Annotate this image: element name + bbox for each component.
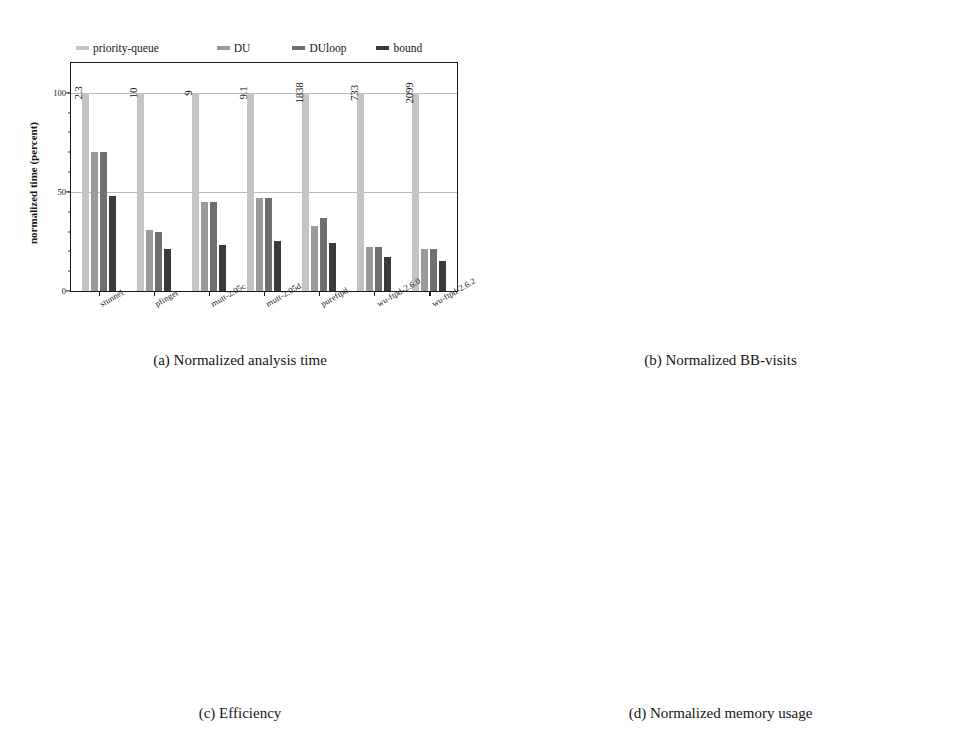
bar-group: 2.3	[71, 63, 126, 291]
panel-a-normalized-analysis-time: priority-queueDUDUloopbound normalized t…	[0, 0, 480, 376]
bar-group: 2099	[402, 63, 457, 291]
legend-label: bound	[393, 42, 422, 54]
bar-priority-queue: 2099	[412, 93, 419, 291]
legend-swatch-icon	[217, 46, 230, 50]
legend-label: priority-queue	[93, 42, 159, 54]
legend-entry-bound: bound	[376, 42, 422, 54]
bar-duloop	[265, 198, 272, 291]
bar-du	[256, 198, 263, 291]
caption-a: (a) Normalized analysis time	[0, 352, 480, 369]
caption-b: (b) Normalized BB-visits	[480, 352, 961, 369]
bar-du	[146, 230, 153, 291]
legend-swatch-icon	[292, 46, 305, 50]
legend-label: DUloop	[309, 42, 346, 54]
bar-duloop	[375, 247, 382, 291]
bar-du	[91, 152, 98, 291]
bar-priority-queue: 2.3	[82, 93, 89, 291]
legend: priority-queueDUDUloopbound	[58, 40, 458, 56]
legend-entry-duloop: DUloop	[292, 42, 346, 54]
bar-value-annotation: 9.1	[237, 86, 250, 99]
x-axis-labels-a: stunnelpfingermutt-2.05cmutt-2.05dpureft…	[70, 292, 458, 352]
legend-swatch-icon	[76, 46, 89, 50]
bar-priority-queue: 733	[357, 93, 364, 291]
bar-value-annotation: 2.3	[72, 86, 85, 99]
bar-du	[311, 226, 318, 291]
bar-group: 733	[347, 63, 402, 291]
bar-value-annotation: 10	[127, 87, 140, 98]
panel-b-normalized-bb-visits: normalized BB-visit (percent) 05010015k6…	[480, 0, 961, 376]
legend-label: DU	[234, 42, 251, 54]
bar-priority-queue: 10	[137, 93, 144, 291]
bar-group: 1838	[292, 63, 347, 291]
legend-swatch-icon	[376, 46, 389, 50]
bar-du	[201, 202, 208, 291]
panel-d-normalized-memory-usage: normalized memory usage (percent) 809010…	[480, 376, 961, 753]
bar-bound	[164, 249, 171, 291]
plot-frame-a: 0501002.31099.118387332099	[70, 62, 458, 292]
y-axis-title-a: normalized time (percent)	[27, 68, 39, 298]
bar-bound	[109, 196, 116, 291]
caption-c: (c) Efficiency	[0, 705, 480, 722]
bar-duloop	[100, 152, 107, 291]
bar-du	[421, 249, 428, 291]
bar-group: 10	[126, 63, 181, 291]
bar-priority-queue: 9	[192, 93, 199, 291]
bar-value-annotation: 9	[182, 90, 195, 95]
panel-c-efficiency: efficiency (percent) 020406080100 stunne…	[0, 376, 480, 753]
bar-duloop	[155, 232, 162, 291]
bar-group: 9.1	[236, 63, 291, 291]
bar-group: 9	[181, 63, 236, 291]
bar-bound	[329, 243, 336, 291]
bar-priority-queue: 1838	[302, 93, 309, 291]
bar-value-annotation: 1838	[292, 82, 305, 103]
figure-four-panel-bar-charts: priority-queueDUDUloopbound normalized t…	[0, 0, 961, 753]
bar-bound	[384, 257, 391, 291]
bar-duloop	[430, 249, 437, 291]
bar-priority-queue: 9.1	[247, 93, 254, 291]
bar-duloop	[210, 202, 217, 291]
bar-value-annotation: 733	[347, 85, 360, 101]
bar-value-annotation: 2099	[402, 82, 415, 103]
bar-du	[366, 247, 373, 291]
bar-duloop	[320, 218, 327, 291]
plot-a: normalized time (percent) 0501002.31099.…	[70, 62, 458, 292]
caption-d: (d) Normalized memory usage	[480, 705, 961, 722]
bar-groups: 2.31099.118387332099	[71, 63, 457, 291]
bar-bound	[439, 261, 446, 291]
bar-bound	[219, 245, 226, 291]
legend-entry-du: DU	[217, 42, 251, 54]
legend-entry-priority-queue: priority-queue	[76, 42, 159, 54]
bar-bound	[274, 241, 281, 291]
